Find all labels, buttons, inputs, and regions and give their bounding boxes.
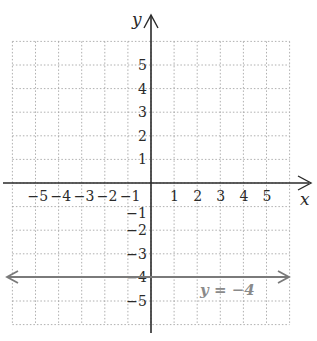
- coordinate-plane: x y −5−4−3−212345−1 54321−1−2−3−4−5 y = …: [0, 0, 317, 341]
- x-tick-label: 1: [170, 188, 179, 204]
- x-tick-label: 3: [216, 188, 225, 204]
- x-tick-label: −3: [74, 188, 95, 204]
- x-tick-label: −2: [97, 188, 118, 204]
- y-tick-label: 2: [138, 128, 147, 144]
- y-tick-label: 3: [138, 104, 147, 120]
- horizontal-line-graph: y = −4: [7, 271, 289, 299]
- y-tick-label: 5: [138, 57, 147, 73]
- x-tick-label: 4: [239, 188, 248, 204]
- x-tick-label: 2: [193, 188, 202, 204]
- y-tick-label: 1: [138, 151, 147, 167]
- x-tick-labels: −5−4−3−212345−1: [28, 188, 272, 204]
- x-tick-label: −4: [51, 188, 72, 204]
- y-tick-label: −1: [126, 205, 147, 221]
- x-axis-label: x: [300, 189, 310, 209]
- y-tick-label: −3: [126, 246, 147, 262]
- y-tick-label: −5: [126, 293, 147, 309]
- x-tick-label: −5: [28, 188, 49, 204]
- axes: x y: [3, 9, 311, 333]
- equation-label: y = −4: [199, 281, 255, 299]
- y-axis-label: y: [131, 9, 142, 29]
- x-tick-label: 5: [263, 188, 272, 204]
- x-tick-label: −1: [120, 188, 141, 204]
- y-tick-label: −2: [126, 222, 147, 238]
- y-tick-label: 4: [138, 81, 147, 97]
